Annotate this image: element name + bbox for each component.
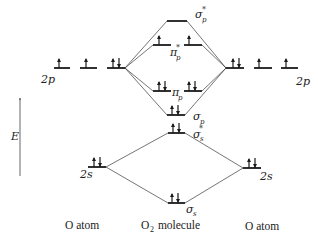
- sigma-p-orbital: σ p: [167, 105, 205, 126]
- svg-text:O: O: [141, 219, 149, 231]
- left-2s-orbital: 2s: [79, 157, 106, 181]
- right-column-caption: O atom: [245, 220, 279, 232]
- sigma-s-star-orbital: σ s *: [168, 123, 204, 143]
- left-column-caption: O atom: [65, 219, 99, 231]
- svg-text:*: *: [202, 5, 206, 14]
- left-2p-label: 2p: [40, 73, 55, 86]
- svg-text:p: p: [178, 94, 183, 102]
- svg-text:*: *: [176, 43, 180, 52]
- center-column-caption: O 2 molecule: [141, 219, 200, 234]
- right-2p-orbitals: 2p: [226, 58, 310, 88]
- svg-text:s: s: [200, 135, 204, 143]
- mo-diagram: E 2p 2p: [0, 0, 318, 240]
- left-2s-label: 2s: [79, 168, 93, 181]
- svg-text:p: p: [176, 54, 181, 62]
- right-2p-label: 2p: [295, 75, 310, 88]
- svg-text:p: p: [202, 16, 207, 24]
- svg-text:molecule: molecule: [155, 219, 200, 231]
- 2s-correlation-lines: [106, 133, 243, 203]
- sigma-s-orbital: σ s: [168, 193, 197, 218]
- svg-text:s: s: [193, 210, 197, 218]
- sigma-p-star-orbital: σ p *: [167, 5, 207, 24]
- right-2s-label: 2s: [259, 170, 273, 183]
- right-2s-orbital: 2s: [243, 158, 273, 183]
- energy-axis: E: [10, 98, 21, 176]
- pi-p-orbitals: π p: [153, 81, 202, 102]
- 2p-correlation-lines: [125, 21, 226, 115]
- svg-text:*: *: [199, 124, 203, 133]
- pi-p-star-orbitals: π p *: [153, 35, 202, 62]
- left-2p-orbitals: 2p: [40, 58, 125, 86]
- energy-axis-label: E: [10, 130, 19, 143]
- svg-text:2: 2: [150, 225, 154, 234]
